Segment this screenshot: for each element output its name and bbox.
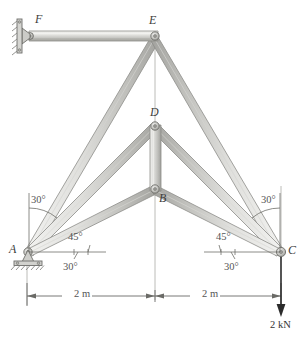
joint-label-D: D xyxy=(150,106,159,118)
member-DB xyxy=(150,125,161,191)
angle-label-right-upper: 30° xyxy=(261,195,276,206)
member-FE xyxy=(29,31,158,41)
joint-label-E: E xyxy=(149,14,156,26)
joint-label-F: F xyxy=(35,13,42,25)
truss-diagram: F E D B A C 30° 45° 30° 30° 45° 30° 2 m … xyxy=(0,0,308,338)
angle-label-right-mid: 45° xyxy=(216,232,231,243)
wall-hatching-F xyxy=(12,21,17,55)
dimension-line-group xyxy=(27,283,281,306)
dimension-label-right: 2 m xyxy=(202,289,218,300)
angle-label-left-mid: 45° xyxy=(68,232,83,243)
support-F-wall-pin xyxy=(12,19,30,55)
joint-label-A: A xyxy=(9,243,16,255)
joint-label-C: C xyxy=(288,244,296,256)
dimension-label-left: 2 m xyxy=(74,289,90,300)
load-arrow-2kn xyxy=(277,257,286,317)
joint-label-B: B xyxy=(159,192,166,204)
load-label-2kn: 2 kN xyxy=(270,320,291,331)
angle-label-left-upper: 30° xyxy=(31,195,46,206)
angle-label-right-lower: 30° xyxy=(224,262,239,273)
tick-A-30 xyxy=(74,252,78,259)
truss-drawing-canvas xyxy=(0,0,308,338)
angle-label-left-lower: 30° xyxy=(63,262,78,273)
tick-C-30 xyxy=(231,252,235,259)
